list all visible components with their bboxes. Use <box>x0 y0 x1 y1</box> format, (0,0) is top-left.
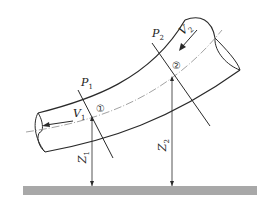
z1-arrow-bottom-icon <box>90 181 94 186</box>
v1-arrowhead-icon <box>42 122 50 127</box>
z2-label: Z2 <box>157 139 171 151</box>
p1-label: P1 <box>81 77 93 91</box>
z2-arrow-bottom-icon <box>170 181 174 186</box>
p2-label: P2 <box>152 28 164 42</box>
v1-label: V1 <box>73 108 85 122</box>
pipe-right-end <box>215 38 240 70</box>
pipe-diagram <box>0 0 269 206</box>
pipe-left-end <box>35 113 45 152</box>
section-1-marker: ① <box>96 104 105 114</box>
section-1-cut-line <box>78 90 113 158</box>
v1-arrow-line <box>46 121 73 125</box>
section-2-marker: ② <box>172 61 181 71</box>
section-2-cut-line <box>152 43 210 126</box>
z1-label: Z1 <box>77 151 91 163</box>
ground-datum <box>23 186 257 195</box>
